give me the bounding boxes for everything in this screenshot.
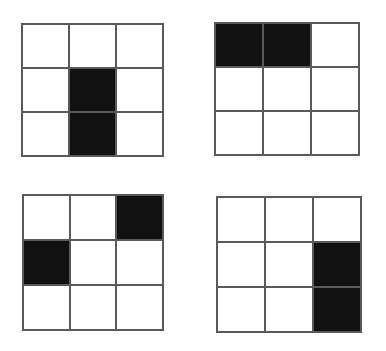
grid-cell-r2-c3 (314, 243, 360, 286)
grid-cell-r3-c1 (216, 112, 262, 154)
grid-cell-r1-c3 (117, 25, 162, 67)
grid-cell-r3-c1 (218, 288, 264, 331)
grid-cell-r3-c3 (117, 113, 162, 155)
panel-top-right (214, 22, 360, 156)
grid-cell-r3-c2 (70, 113, 115, 155)
grid-cell-r1-c3 (314, 198, 360, 241)
grid-cell-r3-c2 (264, 112, 310, 154)
grid-cell-r3-c3 (312, 112, 358, 154)
grid-cell-r2-c1 (216, 68, 262, 110)
grid-cell-r2-c2 (266, 243, 312, 286)
grid-cell-r1-c2 (264, 24, 310, 66)
grid-cell-r2-c2 (71, 241, 116, 284)
grid-cell-r1-c2 (70, 25, 115, 67)
panel-top-left (21, 23, 164, 157)
grid-cell-r2-c1 (24, 241, 69, 284)
grid-cell-r3-c3 (117, 286, 162, 329)
grid-cell-r2-c1 (23, 69, 68, 111)
grid-cell-r1-c2 (266, 198, 312, 241)
grid-cell-r3-c3 (314, 288, 360, 331)
grid-cell-r2-c1 (218, 243, 264, 286)
grid-cell-r1-c1 (218, 198, 264, 241)
grid-cell-r2-c2 (70, 69, 115, 111)
grid-cell-r3-c2 (71, 286, 116, 329)
grid-cell-r1-c1 (23, 25, 68, 67)
grid-pattern-figure (0, 0, 386, 351)
grid-cell-r1-c2 (71, 196, 116, 239)
grid-cell-r3-c1 (23, 113, 68, 155)
grid-cell-r3-c2 (266, 288, 312, 331)
grid-cell-r2-c2 (264, 68, 310, 110)
grid-cell-r2-c3 (117, 241, 162, 284)
panel-bottom-left (22, 194, 164, 331)
grid-cell-r2-c3 (117, 69, 162, 111)
grid-cell-r3-c1 (24, 286, 69, 329)
grid-cell-r1-c3 (312, 24, 358, 66)
grid-cell-r2-c3 (312, 68, 358, 110)
grid-cell-r1-c1 (216, 24, 262, 66)
panel-bottom-right (216, 196, 362, 333)
grid-cell-r1-c1 (24, 196, 69, 239)
grid-cell-r1-c3 (117, 196, 162, 239)
